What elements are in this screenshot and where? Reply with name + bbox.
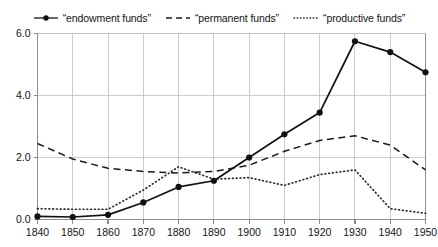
x-tick-label: 1870 (132, 226, 156, 238)
plot-area: 0.02.04.06.0 184018501860187018801890190… (0, 0, 438, 247)
x-tick-label: 1910 (273, 226, 297, 238)
line-chart: “endowment funds” “permanent funds” “pro… (0, 0, 438, 247)
x-tick-label: 1900 (237, 226, 261, 238)
x-tick-label: 1920 (308, 226, 332, 238)
x-tick-label: 1940 (379, 226, 403, 238)
y-axis-tick-labels: 0.02.04.06.0 (16, 27, 31, 225)
axis-lines (34, 34, 426, 224)
x-axis-tick-labels: 1840185018601870188018901900191019201930… (26, 226, 438, 238)
y-tick-label: 4.0 (16, 89, 31, 101)
x-tick-label: 1950 (414, 226, 438, 238)
x-tick-label: 1860 (96, 226, 120, 238)
series-lines (38, 41, 426, 217)
y-tick-label: 6.0 (16, 27, 31, 39)
series-markers (34, 38, 428, 220)
x-tick-label: 1840 (26, 226, 50, 238)
x-tick-label: 1880 (167, 226, 191, 238)
x-tick-label: 1850 (61, 226, 85, 238)
plot-svg: 0.02.04.06.0 184018501860187018801890190… (0, 0, 438, 247)
x-tick-label: 1890 (202, 226, 226, 238)
y-tick-label: 2.0 (16, 151, 31, 163)
x-tick-label: 1930 (343, 226, 367, 238)
grid-lines (38, 34, 426, 220)
y-tick-label: 0.0 (16, 213, 31, 225)
